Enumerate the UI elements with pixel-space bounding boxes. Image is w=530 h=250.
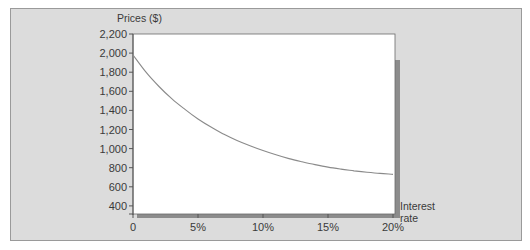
y-tick-label: 600: [109, 181, 127, 193]
x-tick-label: 5%: [190, 221, 206, 233]
x-tick-label: 0: [130, 221, 136, 233]
price-vs-interest-chart: 2,2002,0001,8001,6001,4001,2001,00080060…: [0, 0, 530, 250]
y-tick-label: 2,200: [99, 28, 127, 40]
x-tick-label: 15%: [317, 221, 339, 233]
y-tick-label: 2,000: [99, 47, 127, 59]
x-axis-title-line2: rate: [400, 212, 418, 224]
y-tick-label: 800: [109, 162, 127, 174]
y-tick-label: 1,800: [99, 66, 127, 78]
y-axis: 2,2002,0001,8001,6001,4001,2001,00080060…: [99, 28, 133, 215]
y-tick-label: 1,000: [99, 143, 127, 155]
y-tick-label: 1,400: [99, 104, 127, 116]
plot-shadow-right: [395, 60, 400, 218]
x-tick-label: 10%: [252, 221, 274, 233]
y-tick-label: 1,200: [99, 124, 127, 136]
plot-shadow-bottom: [137, 214, 400, 218]
y-tick-label: 400: [109, 200, 127, 212]
y-tick-label: 1,600: [99, 85, 127, 97]
x-axis-title-line1: Interest: [400, 200, 435, 212]
plot-area: [133, 34, 395, 214]
y-axis-title: Prices ($): [117, 12, 162, 24]
